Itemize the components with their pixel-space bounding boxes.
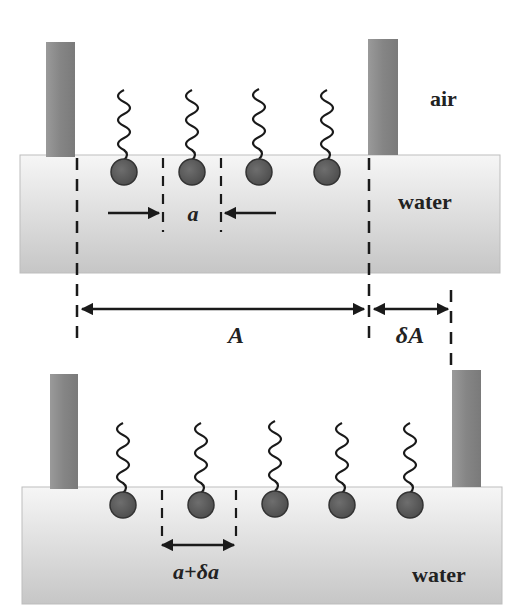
spacing-label-a-plus-delta-a: a+δa <box>173 559 219 584</box>
area-dimensions: A δA <box>82 290 451 372</box>
bottom-panel: a+δa water <box>22 370 502 604</box>
surfactant-molecule <box>110 423 136 518</box>
spacing-label-a: a <box>188 201 199 226</box>
barrier-left-top <box>46 42 75 157</box>
delta-area-label: δA <box>396 322 424 348</box>
water-label-top: water <box>398 189 452 214</box>
area-label: A <box>226 322 244 348</box>
surfactant-molecule <box>111 90 137 185</box>
monolayer-compression-diagram: a air water A δA <box>0 0 510 611</box>
top-panel: a air water <box>20 39 500 340</box>
surfactant-molecule <box>188 423 214 518</box>
barrier-right-bottom <box>452 370 481 487</box>
barrier-right-top <box>368 39 398 155</box>
air-label: air <box>430 86 457 111</box>
barrier-left-bottom <box>50 374 78 489</box>
surfactant-molecule <box>329 423 355 518</box>
surfactant-molecule <box>314 90 340 185</box>
water-label-bottom: water <box>412 562 466 587</box>
surfactant-molecule <box>179 90 205 185</box>
surfactant-molecule <box>246 89 272 185</box>
surfactant-molecule <box>262 421 288 517</box>
surfactant-molecule <box>397 423 423 518</box>
